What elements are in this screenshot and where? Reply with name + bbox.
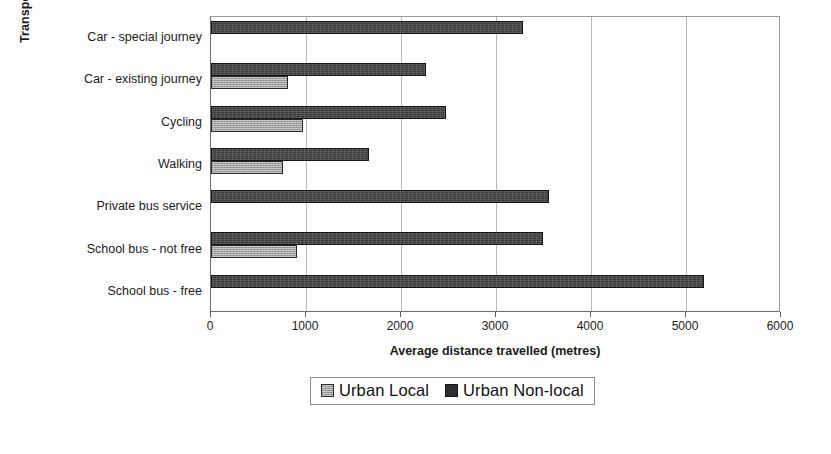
legend-entry: Urban Non-local <box>445 381 584 400</box>
plot-area <box>210 16 780 312</box>
x-tick-4000 <box>590 312 591 317</box>
bar-urban-local <box>211 245 297 258</box>
bar-urban-non-local <box>211 190 549 203</box>
category-label: School bus - not free <box>32 242 202 256</box>
x-tick-label: 5000 <box>672 319 699 333</box>
bar-group <box>211 144 781 186</box>
x-tick-label: 2000 <box>387 319 414 333</box>
category-label: Car - existing journey <box>32 72 202 86</box>
bar-group <box>211 59 781 101</box>
category-label: Cycling <box>32 115 202 129</box>
bar-group <box>211 186 781 228</box>
bar-chart-figure: Transport arrangements Car - special jou… <box>0 0 831 454</box>
category-label: Private bus service <box>32 199 202 213</box>
legend-entry: Urban Local <box>321 381 429 400</box>
category-label: Walking <box>32 157 202 171</box>
bar-group <box>211 228 781 270</box>
bar-group <box>211 271 781 313</box>
x-tick-3000 <box>495 312 496 317</box>
category-axis-labels: Car - special journeyCar - existing jour… <box>40 16 206 312</box>
bar-urban-non-local <box>211 148 369 161</box>
x-axis-title: Average distance travelled (metres) <box>210 344 780 358</box>
x-tick-label: 1000 <box>292 319 319 333</box>
x-tick-2000 <box>400 312 401 317</box>
bar-group <box>211 102 781 144</box>
legend-swatch-icon <box>445 384 458 397</box>
x-tick-0 <box>210 312 211 317</box>
x-tick-5000 <box>685 312 686 317</box>
bar-group <box>211 17 781 59</box>
category-label: School bus - free <box>32 284 202 298</box>
category-label: Car - special journey <box>32 30 202 44</box>
bar-urban-local <box>211 76 288 89</box>
bar-urban-local <box>211 161 283 174</box>
x-tick-6000 <box>780 312 781 317</box>
x-axis-tick-labels: 0100020003000400050006000 <box>210 319 780 335</box>
x-tick-label: 0 <box>207 319 214 333</box>
bar-urban-local <box>211 119 303 132</box>
legend-label: Urban Non-local <box>463 381 584 400</box>
bar-urban-non-local <box>211 63 426 76</box>
x-tick-label: 6000 <box>767 319 794 333</box>
x-axis-tick-marks <box>210 312 780 317</box>
bar-urban-non-local <box>211 106 446 119</box>
x-tick-1000 <box>305 312 306 317</box>
x-tick-label: 3000 <box>482 319 509 333</box>
legend-swatch-icon <box>321 384 334 397</box>
bar-urban-non-local <box>211 275 704 288</box>
bar-urban-non-local <box>211 232 543 245</box>
bar-urban-non-local <box>211 21 523 34</box>
chart-legend: Urban LocalUrban Non-local <box>310 377 595 405</box>
legend-label: Urban Local <box>339 381 429 400</box>
x-tick-label: 4000 <box>577 319 604 333</box>
